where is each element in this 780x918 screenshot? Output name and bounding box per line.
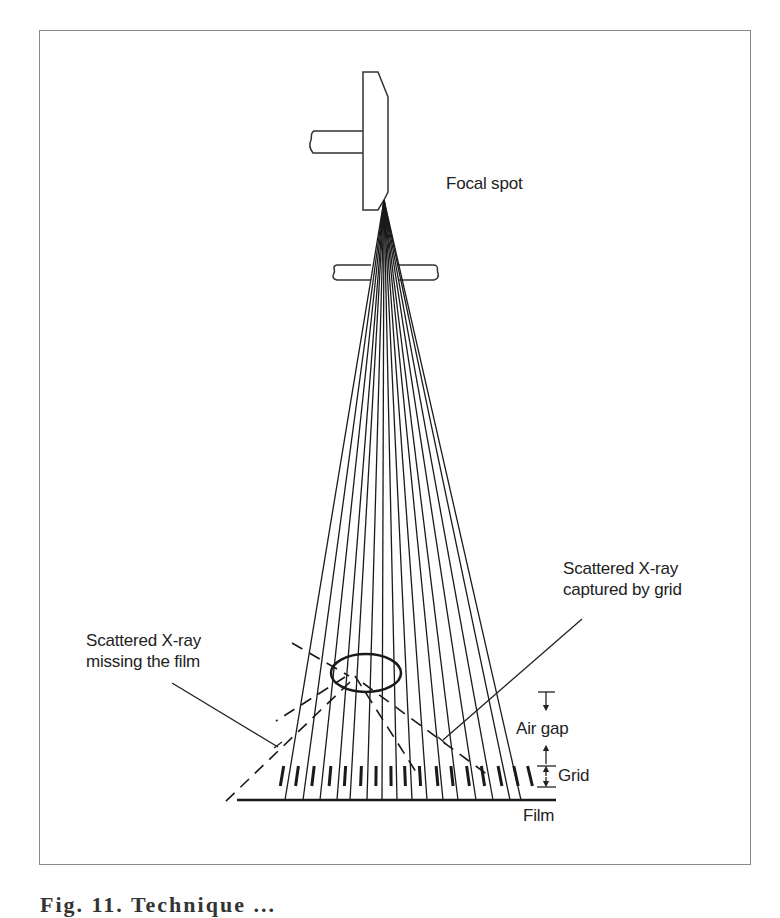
grid-bar	[296, 766, 299, 786]
figure-caption: Fig. 11. Technique ...	[40, 892, 276, 918]
primary-ray	[350, 200, 384, 800]
grid-bar	[329, 766, 331, 786]
primary-ray	[320, 200, 384, 800]
primary-ray	[384, 200, 521, 800]
grid-bar	[405, 766, 406, 786]
scatter-source-ellipse	[331, 654, 401, 692]
grid-bar	[361, 766, 362, 786]
scatter-missing-film-upper	[276, 677, 345, 721]
grid-bar	[436, 766, 438, 786]
anode-target	[363, 72, 388, 210]
grid-bar	[481, 766, 484, 786]
leader-missing-film	[172, 683, 278, 747]
grid-bar	[312, 766, 314, 786]
grid-bar	[280, 766, 283, 786]
air-gap-label: Air gap	[516, 718, 568, 740]
anti-scatter-grid	[280, 766, 532, 786]
grid-bar	[528, 766, 533, 786]
grid-bar	[419, 766, 420, 786]
scatter-captured-label-line2: captured by grid	[563, 579, 682, 601]
film-label: Film	[523, 805, 554, 827]
grid-bar	[344, 766, 345, 786]
scatter-missing-label-line2: missing the film	[86, 651, 200, 673]
primary-ray	[384, 200, 443, 800]
grid-label: Grid	[558, 765, 589, 787]
primary-ray	[382, 200, 384, 800]
grid-dimension	[537, 766, 556, 787]
grid-bar	[498, 766, 502, 786]
grid-bar	[514, 766, 518, 786]
scatter-captured-label-line1: Scattered X-ray	[563, 558, 678, 580]
grid-bar	[451, 766, 453, 786]
anode-shaft	[310, 131, 363, 153]
grid-bar	[467, 766, 470, 786]
scatter-missing-label-line1: Scattered X-ray	[86, 630, 201, 652]
focal-spot-label: Focal spot	[446, 173, 522, 195]
